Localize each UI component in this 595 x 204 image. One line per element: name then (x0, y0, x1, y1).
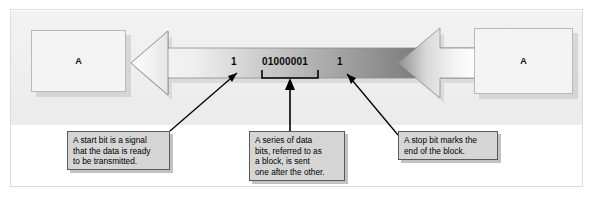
caption-start-bit: A start bit is a signal that the data is… (67, 131, 170, 170)
node-label-right: A (475, 56, 572, 66)
pointer-stop-bit (347, 74, 398, 135)
node-label-left: A (32, 56, 125, 66)
start-bit-value: 1 (231, 56, 237, 67)
arrow-head-right (398, 28, 478, 98)
node-box-right[interactable]: A (474, 28, 573, 94)
data-bits-value: 01000001 (262, 56, 308, 67)
pointer-data-bits (285, 78, 295, 131)
caption-stop-bit: A stop bit marks the end of the block. (398, 131, 498, 160)
diagram-canvas: A A 1 01000001 1 A start bit is a signal… (0, 0, 595, 204)
node-box-left[interactable]: A (31, 30, 126, 92)
caption-data-bits-text: A series of data bits, referred to as a … (255, 135, 340, 177)
stop-bit-value: 1 (337, 56, 343, 67)
arrow-head-left (131, 31, 168, 95)
caption-data-bits: A series of data bits, referred to as a … (249, 131, 345, 181)
caption-stop-bit-text: A stop bit marks the end of the block. (404, 135, 493, 156)
caption-start-bit-text: A start bit is a signal that the data is… (73, 135, 165, 167)
